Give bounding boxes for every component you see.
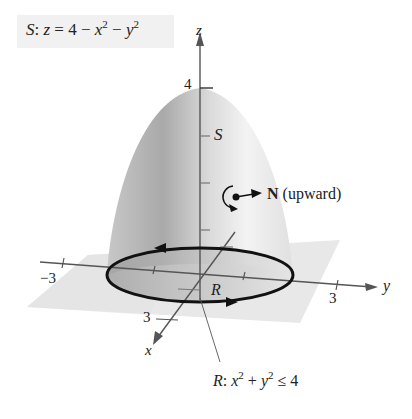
eq-const: 4 bbox=[68, 20, 77, 39]
exp: 2 bbox=[102, 18, 108, 30]
x-tick-3: 3 bbox=[143, 309, 151, 326]
colon: : bbox=[223, 372, 227, 389]
region-symbol: R bbox=[213, 372, 223, 389]
y-tick-neg3: −3 bbox=[40, 270, 56, 287]
normal-label: N (upward) bbox=[267, 185, 341, 203]
z-axis-label: z bbox=[196, 22, 202, 39]
eq-sign: = bbox=[54, 20, 64, 39]
region-caption: R: x2 + y2 ≤ 4 bbox=[213, 372, 298, 390]
y-axis-label: y bbox=[383, 277, 390, 295]
exp: 2 bbox=[268, 369, 274, 381]
x-axis-label: x bbox=[145, 342, 152, 359]
surface-symbol: S bbox=[26, 20, 35, 39]
paraboloid-diagram bbox=[0, 0, 412, 419]
z-tick-4: 4 bbox=[184, 76, 192, 93]
surface-equation: S: z = 4 − x2 − y2 bbox=[26, 20, 139, 40]
exp: 2 bbox=[133, 18, 139, 30]
surface-label: S bbox=[214, 125, 223, 145]
y-tick-3: 3 bbox=[329, 290, 337, 307]
normal-symbol: N bbox=[267, 185, 279, 202]
normal-direction: (upward) bbox=[283, 185, 342, 202]
exp: 2 bbox=[238, 369, 244, 381]
var-y: y bbox=[261, 372, 268, 389]
y-axis-arrowhead bbox=[365, 283, 378, 291]
eq-lhs: z bbox=[43, 20, 50, 39]
leq: ≤ bbox=[277, 372, 286, 389]
radius-sq: 4 bbox=[290, 372, 298, 389]
minus: − bbox=[112, 20, 122, 39]
region-label: R bbox=[211, 281, 221, 299]
colon: : bbox=[35, 20, 40, 39]
plus: + bbox=[248, 372, 257, 389]
minus: − bbox=[81, 20, 91, 39]
